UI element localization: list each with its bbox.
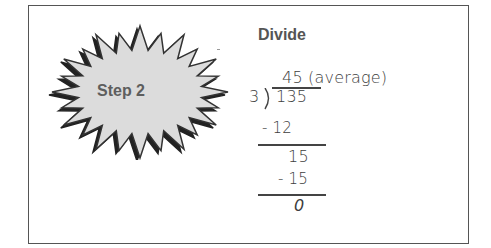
division-bracket-icon [262,88,274,110]
divisor: 3 [249,87,259,106]
operation-title: Divide [258,26,306,44]
remainder-step-2: 0 [294,196,304,215]
step-label: Step 2 [97,82,145,100]
dividend: 135 [276,87,307,106]
subtraction-rule-1 [258,144,326,146]
remainder-step-1: 15 [288,147,309,166]
decorative-mark [217,49,220,50]
subtraction-step-2: - 15 [278,170,308,188]
subtraction-rule-2 [258,194,326,196]
subtraction-step-1: - 12 [262,119,292,137]
quotient: 45 (average) [282,68,387,87]
